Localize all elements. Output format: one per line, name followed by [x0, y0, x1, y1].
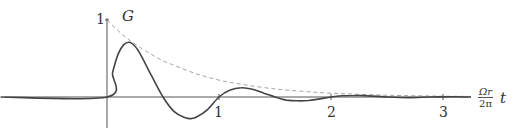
x-axis-label-numerator: Ωr: [478, 86, 493, 98]
g-curve: [1, 42, 471, 118]
x-tick-label-1: 1: [214, 104, 223, 120]
damped-oscillation-chart: [0, 0, 515, 131]
x-tick-label-3: 3: [439, 104, 448, 120]
x-axis-label-variable: t: [500, 89, 506, 107]
y-axis-label: G: [122, 7, 134, 25]
y-tick-label-1: 1: [96, 11, 105, 27]
x-axis-label-denominator: 2π: [479, 98, 492, 109]
x-tick-label-2: 2: [327, 104, 336, 120]
envelope-curve: [107, 20, 471, 96]
x-axis-label-fraction: Ωr 2π: [478, 86, 493, 109]
axis-ticks: [105, 20, 443, 100]
